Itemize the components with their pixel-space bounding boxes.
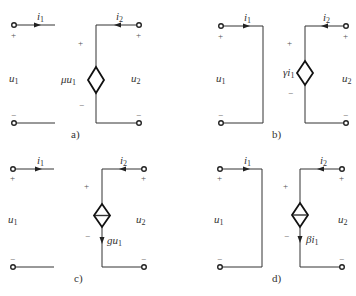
voltage-u2-label: u2: [342, 72, 352, 86]
panel-b: i1 + − u1 i2 + − u2 + − γi1 b): [216, 11, 352, 141]
terminal-icon: [137, 121, 142, 126]
voltage-u1-label: u1: [9, 72, 19, 86]
minus-sign: −: [217, 254, 222, 264]
minus-sign: −: [218, 110, 223, 120]
current-i2-label: i2: [116, 10, 123, 24]
terminal-icon: [137, 23, 142, 28]
plus-sign: +: [339, 173, 344, 183]
voltage-u2-label: u2: [338, 213, 348, 227]
terminal-icon: [219, 24, 224, 29]
source-minus-sign: −: [284, 231, 289, 241]
dependent-voltage-source-icon: [88, 67, 104, 93]
voltage-u1-label: u1: [8, 213, 18, 227]
terminal-icon: [340, 167, 345, 172]
panel-caption: b): [272, 128, 282, 141]
voltage-u1-label: u1: [216, 72, 226, 86]
terminal-icon: [12, 23, 17, 28]
current-i1-label: i1: [37, 154, 44, 168]
minus-sign: −: [136, 110, 141, 120]
panel-d: i1 + − u1 i2 + − u2 + − βi1 d): [214, 154, 348, 285]
terminal-icon: [344, 24, 349, 29]
plus-sign: +: [141, 173, 146, 183]
panel-caption: a): [71, 128, 80, 141]
terminal-icon: [11, 265, 16, 270]
terminal-icon: [340, 265, 345, 270]
terminal-icon: [218, 167, 223, 172]
source-minus-sign: −: [79, 100, 84, 110]
current-i2-label: i2: [120, 154, 127, 168]
source-plus-sign: +: [84, 181, 89, 191]
controlled-sources-diagram: i1 + − u1 i2 + − u2 + − μu1 a) i1 + − u1: [0, 0, 356, 296]
panel-c: i1 + − u1 i2 + − u2 + − gu1 c): [8, 154, 146, 285]
plus-sign: +: [343, 31, 348, 41]
terminal-icon: [218, 265, 223, 270]
terminal-icon: [142, 265, 147, 270]
source-value-label: μu1: [60, 73, 76, 87]
arrow-down-icon: [100, 237, 105, 244]
voltage-u1-label: u1: [214, 213, 224, 227]
terminal-icon: [344, 121, 349, 126]
plus-sign: +: [218, 31, 223, 41]
current-i2-label: i2: [323, 11, 330, 25]
terminal-icon: [142, 167, 147, 172]
plus-sign: +: [10, 173, 15, 183]
plus-sign: +: [11, 30, 16, 40]
minus-sign: −: [339, 254, 344, 264]
minus-sign: −: [343, 110, 348, 120]
terminal-icon: [11, 167, 16, 172]
source-plus-sign: +: [283, 181, 288, 191]
terminal-icon: [12, 121, 17, 126]
minus-sign: −: [11, 110, 16, 120]
voltage-u2-label: u2: [131, 72, 141, 86]
panel-caption: c): [74, 272, 83, 285]
current-i1-label: i1: [244, 154, 251, 168]
panel-a: i1 + − u1 i2 + − u2 + − μu1 a): [9, 10, 141, 141]
voltage-u2-label: u2: [136, 213, 146, 227]
plus-sign: +: [217, 173, 222, 183]
source-minus-sign: −: [288, 88, 293, 98]
source-minus-sign: −: [85, 231, 90, 241]
current-i1-label: i1: [37, 10, 44, 24]
minus-sign: −: [10, 254, 15, 264]
plus-sign: +: [136, 30, 141, 40]
source-plus-sign: +: [287, 38, 292, 48]
current-i2-label: i2: [320, 154, 327, 168]
source-value-label: gu1: [107, 234, 122, 248]
source-value-label: γi1: [283, 66, 294, 80]
terminal-icon: [219, 121, 224, 126]
minus-sign: −: [141, 254, 146, 264]
current-i1-label: i1: [244, 11, 251, 25]
arrow-down-icon: [298, 236, 303, 243]
panel-caption: d): [272, 272, 282, 285]
source-plus-sign: +: [78, 38, 83, 48]
dependent-voltage-source-icon: [297, 61, 313, 85]
source-value-label: βi1: [305, 233, 319, 247]
